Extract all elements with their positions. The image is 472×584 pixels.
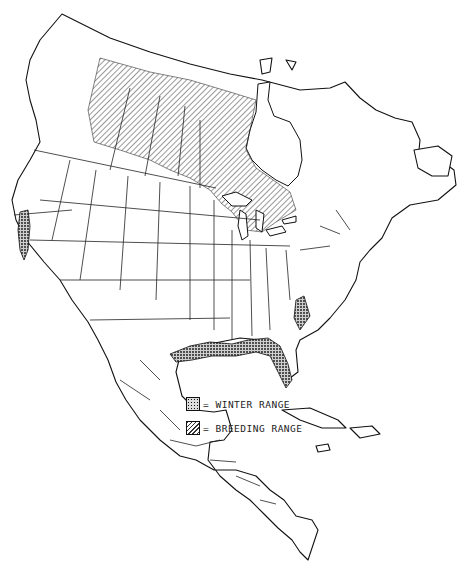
winter-range-california	[18, 210, 30, 260]
legend-item-winter: = WINTER RANGE	[186, 394, 303, 414]
stipple-swatch-icon	[186, 397, 200, 411]
legend-label-breeding: = BREEDING RANGE	[203, 423, 303, 434]
range-map	[0, 0, 472, 584]
jamaica	[316, 444, 330, 452]
hispaniola	[350, 426, 380, 438]
map-legend: = WINTER RANGE = BREEDING RANGE	[186, 394, 303, 442]
hatch-swatch-icon	[186, 421, 200, 435]
legend-label-winter: = WINTER RANGE	[203, 399, 290, 410]
legend-item-breeding: = BREEDING RANGE	[186, 418, 303, 438]
arctic-islands	[260, 58, 296, 74]
